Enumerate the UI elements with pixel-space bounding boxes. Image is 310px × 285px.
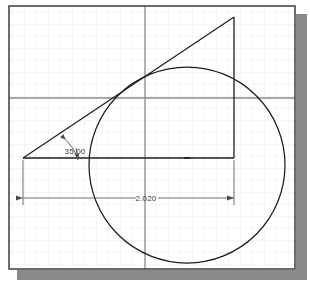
drawing-canvas: 35.00 2.020: [0, 0, 310, 285]
minor-grid: [9, 6, 295, 269]
linear-dimension-value[interactable]: 2.020: [135, 194, 156, 203]
angle-dimension-value[interactable]: 35.00: [64, 147, 85, 156]
technical-drawing: 35.00 2.020: [0, 0, 310, 285]
